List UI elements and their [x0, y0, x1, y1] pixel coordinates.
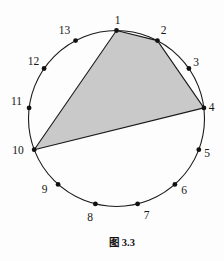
point-label-13: 13: [59, 24, 71, 36]
point-dot-8: [93, 202, 98, 207]
point-label-11: 11: [11, 95, 22, 107]
point-dot-12: [42, 66, 47, 71]
point-label-9: 9: [42, 183, 48, 195]
point-dot-6: [173, 182, 178, 187]
figure-page: 12345678910111213 图 3.3: [0, 0, 224, 261]
point-dot-9: [56, 182, 61, 187]
point-dot-5: [196, 147, 201, 152]
point-label-3: 3: [193, 56, 199, 68]
point-label-5: 5: [204, 147, 210, 159]
point-label-7: 7: [144, 209, 150, 221]
shaded-region-layer: [34, 31, 204, 150]
point-dot-7: [135, 202, 140, 207]
figure-caption: 图 3.3: [109, 237, 135, 248]
point-dot-1: [114, 28, 119, 33]
point-dot-3: [187, 66, 192, 71]
point-label-10: 10: [12, 144, 24, 156]
point-label-12: 12: [28, 55, 40, 67]
point-label-8: 8: [87, 211, 93, 223]
shaded-polygon: [34, 31, 204, 150]
point-label-4: 4: [209, 101, 215, 113]
point-dot-11: [27, 106, 32, 111]
point-dot-2: [155, 38, 160, 43]
point-label-6: 6: [181, 184, 187, 196]
point-dot-4: [202, 106, 207, 111]
point-label-1: 1: [115, 14, 121, 26]
circle-diagram: 12345678910111213 图 3.3: [0, 0, 224, 261]
point-dot-10: [32, 147, 37, 152]
point-label-2: 2: [161, 24, 167, 36]
point-dot-13: [73, 38, 78, 43]
